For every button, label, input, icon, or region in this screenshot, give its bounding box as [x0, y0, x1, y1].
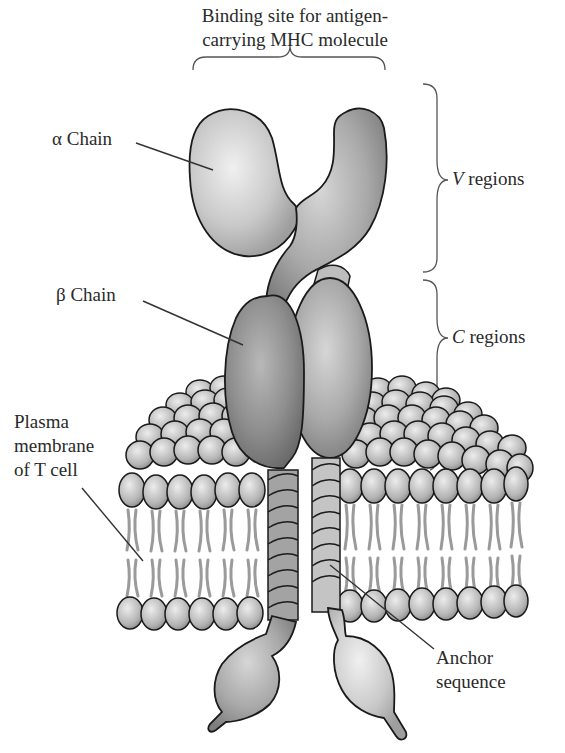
- anchor-sequence-line1: Anchor: [436, 646, 506, 670]
- c-regions-label: C regions: [452, 326, 525, 348]
- beta-chain-label: β Chain: [56, 284, 116, 306]
- plasma-membrane-label: Plasma membrane of T cell: [14, 410, 94, 482]
- tcr-diagram: [0, 0, 565, 753]
- right-cytoplasmic-tail: [328, 608, 406, 739]
- v-regions-text: regions: [468, 168, 524, 189]
- plasma-membrane-line3: of T cell: [14, 458, 94, 482]
- v-regions-label: V regions: [452, 168, 524, 190]
- alpha-symbol: α: [52, 128, 62, 149]
- plasma-membrane-line1: Plasma: [14, 410, 94, 434]
- c-regions-text: regions: [469, 326, 525, 347]
- left-cytoplasmic-tail: [208, 616, 296, 732]
- right-anchor-strand: [312, 458, 340, 612]
- beta-chain-text: Chain: [70, 284, 115, 305]
- alpha-chain-text: Chain: [67, 128, 112, 149]
- beta-chain-c-region: [225, 295, 304, 468]
- beta-symbol: β: [56, 284, 66, 305]
- left-anchor-strand: [268, 470, 298, 620]
- binding-site-label: Binding site for antigen- carrying MHC m…: [170, 5, 420, 51]
- anchor-sequence-line2: sequence: [436, 670, 506, 694]
- v-regions-bracket: [423, 84, 448, 272]
- v-letter: V: [452, 168, 464, 189]
- binding-site-label-line2: carrying MHC molecule: [170, 29, 420, 51]
- binding-site-label-line1: Binding site for antigen-: [170, 5, 420, 27]
- beta-chain-leader: [143, 301, 243, 345]
- c-letter: C: [452, 326, 465, 347]
- plasma-membrane-line2: membrane: [14, 434, 94, 458]
- alpha-chain-v-region: [190, 109, 299, 256]
- alpha-chain-label: α Chain: [52, 128, 112, 150]
- anchor-sequence-label: Anchor sequence: [436, 646, 506, 694]
